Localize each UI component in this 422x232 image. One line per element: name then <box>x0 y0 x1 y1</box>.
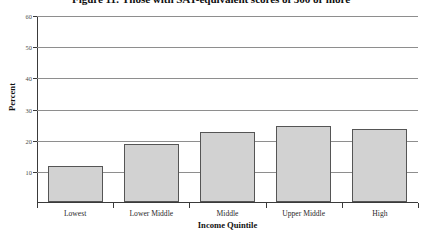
x-tick-mark <box>113 203 114 208</box>
bar-middle <box>200 132 255 202</box>
y-tick-mark <box>33 78 37 79</box>
y-tick-mark <box>33 110 37 111</box>
category-label-high: High <box>372 209 387 218</box>
y-tick-label: 60 <box>26 13 32 20</box>
x-tick-mark <box>418 203 419 208</box>
y-tick-label: 10 <box>26 168 32 175</box>
x-tick-mark <box>342 203 343 208</box>
y-tick-label: 30 <box>26 106 32 113</box>
plot-area: 102030405060 <box>37 16 418 203</box>
figure-container: Figure 11: Those with SAT-equivalent sco… <box>0 0 422 232</box>
y-tick-mark <box>33 16 37 17</box>
chart-title: Figure 11: Those with SAT-equivalent sco… <box>0 0 422 5</box>
category-label-lowest: Lowest <box>64 209 86 218</box>
y-tick-mark <box>33 47 37 48</box>
y-tick-mark <box>33 172 37 173</box>
x-axis-label: Income Quintile <box>37 220 418 230</box>
x-tick-mark <box>266 203 267 208</box>
bar-upper-middle <box>276 126 331 202</box>
category-label-lower-middle: Lower Middle <box>129 209 173 218</box>
bar-lowest <box>48 166 103 202</box>
gridline <box>37 47 418 48</box>
x-tick-mark <box>189 203 190 208</box>
gridline <box>37 16 418 17</box>
bar-high <box>352 129 407 202</box>
category-label-middle: Middle <box>217 209 239 218</box>
category-label-upper-middle: Upper Middle <box>282 209 325 218</box>
y-tick-mark <box>33 141 37 142</box>
y-axis-label: Percent <box>7 67 17 127</box>
gridline <box>37 110 418 111</box>
y-tick-label: 40 <box>26 75 32 82</box>
y-tick-label: 20 <box>26 137 32 144</box>
x-tick-mark <box>37 203 38 208</box>
gridline <box>37 78 418 79</box>
y-tick-label: 50 <box>26 44 32 51</box>
bar-lower-middle <box>124 144 179 202</box>
